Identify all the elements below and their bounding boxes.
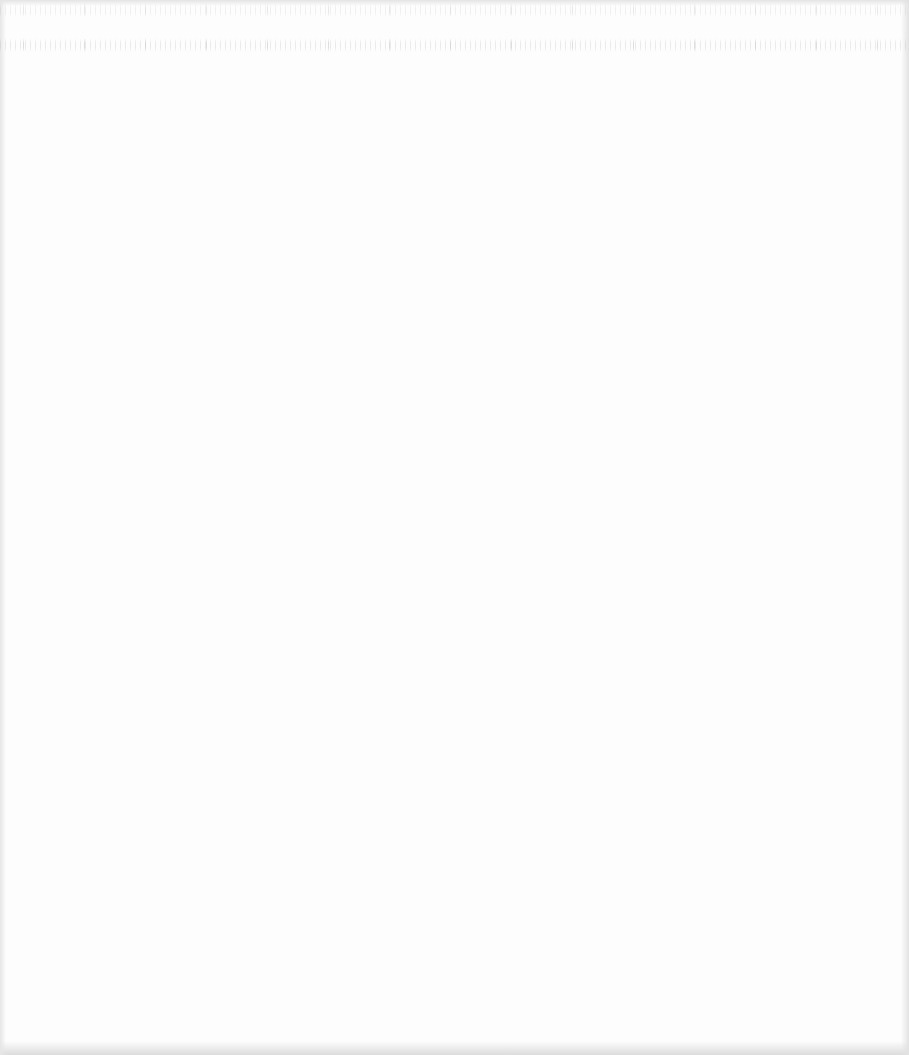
illegible-marks bbox=[0, 38, 909, 52]
blank-content-area bbox=[0, 70, 909, 1055]
scanned-page bbox=[0, 0, 909, 1055]
show-through-text-line bbox=[0, 38, 909, 52]
show-through-text-line bbox=[0, 3, 909, 17]
illegible-marks bbox=[0, 3, 909, 17]
